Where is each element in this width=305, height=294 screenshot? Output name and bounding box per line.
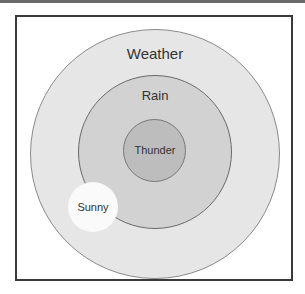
sunny-label: Sunny <box>77 201 108 213</box>
rain-label: Rain <box>142 88 169 103</box>
thunder-label: Thunder <box>135 144 176 156</box>
top-border <box>0 0 305 3</box>
diagram-frame: Weather Rain Thunder Sunny <box>15 15 293 281</box>
weather-label: Weather <box>127 45 183 62</box>
